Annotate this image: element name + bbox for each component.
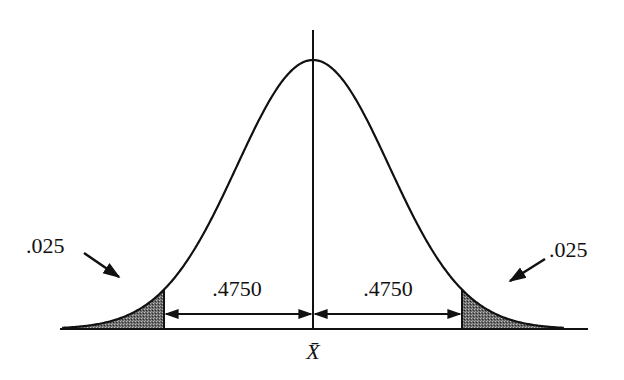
left-central-area-label: .4750: [212, 276, 262, 301]
right-tail-area-label: .025: [549, 237, 588, 262]
left-tail-shaded-region: [62, 290, 164, 329]
right-tail-pointer-arrow: [510, 259, 545, 281]
mean-label: X̄: [305, 339, 321, 364]
right-tail-shaded-region: [462, 290, 564, 329]
left-tail-area-label: .025: [26, 233, 65, 258]
right-central-area-label: .4750: [363, 276, 413, 301]
normal-curve-diagram: .025 .025 .4750 .4750 X̄: [0, 0, 624, 380]
left-tail-pointer-arrow: [84, 253, 119, 277]
diagram-canvas: .025 .025 .4750 .4750 X̄: [0, 0, 624, 380]
